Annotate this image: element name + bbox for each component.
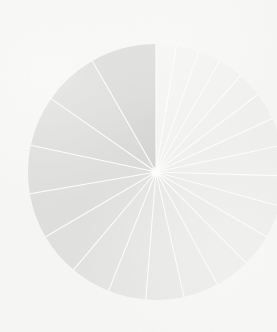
pie-chart-figure	[0, 0, 277, 332]
pie-center-hub	[151, 167, 161, 177]
pie-chart-svg	[0, 0, 277, 332]
